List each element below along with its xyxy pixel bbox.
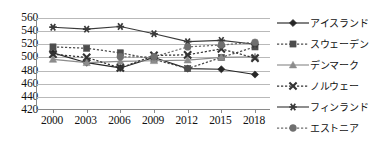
x-tick-mark	[154, 109, 155, 113]
data-point	[150, 31, 158, 37]
y-tick-560: 560	[4, 12, 38, 24]
legend-label: エストニア	[310, 120, 359, 135]
legend-marker-square-icon	[276, 37, 310, 51]
data-point	[184, 43, 191, 50]
x-tick-mark	[120, 109, 121, 113]
legend-label: デンマーク	[310, 57, 359, 72]
x-tick-2012: 2012	[176, 114, 198, 126]
x-tick-mark	[255, 109, 256, 113]
data-point	[218, 42, 225, 49]
data-point	[252, 39, 259, 46]
data-point	[251, 71, 258, 78]
legend-item-3[interactable]: ノルウェー	[276, 75, 379, 96]
data-point	[151, 53, 158, 60]
data-point	[117, 53, 124, 60]
legend-item-5[interactable]: エストニア	[276, 117, 379, 138]
y-tick-440: 440	[4, 91, 38, 103]
plot-area	[36, 18, 270, 110]
y-tick-500: 500	[4, 52, 38, 64]
x-tick-2006: 2006	[108, 114, 130, 126]
x-tick-mark	[53, 109, 54, 113]
legend-marker-circle-icon	[276, 121, 310, 135]
data-point	[117, 23, 125, 29]
x-tick-2000: 2000	[41, 114, 63, 126]
data-point	[218, 66, 225, 73]
y-tick-460: 460	[4, 78, 38, 90]
legend-item-1[interactable]: スウェーデン	[276, 33, 379, 54]
y-tick-420: 420	[4, 104, 38, 116]
data-point	[83, 26, 91, 32]
x-tick-mark	[188, 109, 189, 113]
series-layer	[37, 18, 271, 110]
data-point	[49, 24, 57, 30]
legend-marker-cross-icon	[276, 79, 310, 93]
legend-label: フィンランド	[310, 99, 368, 114]
x-tick-2015: 2015	[209, 114, 231, 126]
legend-marker-asterisk-icon	[276, 100, 310, 114]
x-tick-mark	[87, 109, 88, 113]
data-point	[50, 44, 56, 50]
x-tick-mark	[221, 109, 222, 113]
legend-marker-diamond-icon	[276, 16, 310, 30]
line-chart: 560 540 520 500 480 460 440 420 20002003…	[0, 0, 379, 160]
legend-item-2[interactable]: デンマーク	[276, 54, 379, 75]
data-point	[185, 66, 191, 72]
x-tick-2009: 2009	[142, 114, 164, 126]
x-tick-2003: 2003	[75, 114, 97, 126]
legend-label: スウェーデン	[310, 36, 368, 51]
y-tick-520: 520	[4, 39, 38, 51]
y-tick-540: 540	[4, 25, 38, 37]
legend: アイスランドスウェーデンデンマークノルウェーフィンランドエストニア	[276, 12, 379, 138]
legend-label: アイスランド	[310, 15, 368, 30]
legend-item-4[interactable]: フィンランド	[276, 96, 379, 117]
legend-item-0[interactable]: アイスランド	[276, 12, 379, 33]
legend-marker-triangle-icon	[276, 58, 310, 72]
y-tick-480: 480	[4, 65, 38, 77]
data-point	[84, 45, 90, 51]
x-tick-2018: 2018	[243, 114, 265, 126]
legend-label: ノルウェー	[310, 78, 359, 93]
